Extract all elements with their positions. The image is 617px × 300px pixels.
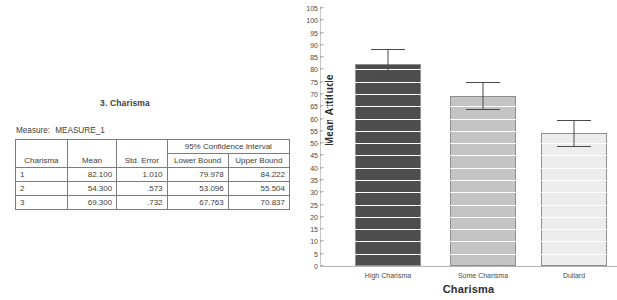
- y-axis-tick-label: 25: [288, 201, 320, 208]
- y-axis-tick-label: 20: [288, 213, 320, 220]
- y-axis-tick-mark: [320, 106, 324, 107]
- cell-upper-bound: 70.837: [228, 196, 289, 210]
- y-axis-tick-mark: [320, 229, 324, 230]
- y-axis-tick-label: 45: [288, 152, 320, 159]
- y-axis-tick-mark: [320, 8, 324, 9]
- y-axis-tick-mark: [320, 192, 324, 193]
- x-axis-tick-label: Some Charisma: [433, 272, 533, 279]
- table-row: 3 69.300 .732 67.763 70.837: [16, 196, 290, 210]
- header-std-error: Std. Error: [117, 154, 167, 168]
- cell-charisma: 3: [16, 196, 68, 210]
- error-bar-cap: [371, 49, 405, 50]
- error-bar-stem: [574, 120, 575, 146]
- y-axis-tick-label: 55: [288, 127, 320, 134]
- y-axis-tick-label: 75: [288, 78, 320, 85]
- y-axis-tick-mark: [320, 241, 324, 242]
- header-lower-bound: Lower Bound: [167, 154, 228, 168]
- y-axis-tick-mark: [320, 143, 324, 144]
- cell-lower-bound: 79.978: [167, 168, 228, 182]
- gridline: [322, 20, 617, 21]
- y-axis-tick-mark: [320, 204, 324, 205]
- error-bar-cap: [371, 79, 405, 80]
- bar[interactable]: [355, 64, 421, 266]
- y-axis-tick-mark: [320, 253, 324, 254]
- cell-charisma: 2: [16, 182, 68, 196]
- x-axis-line: [320, 266, 617, 267]
- y-axis-tick-label: 105: [288, 5, 320, 12]
- cell-std-error: .732: [117, 196, 167, 210]
- x-axis-title: Charisma: [320, 283, 617, 295]
- error-bar-cap: [466, 109, 500, 110]
- cell-lower-bound: 53.096: [167, 182, 228, 196]
- y-axis-tick-label: 0: [288, 263, 320, 270]
- y-axis-tick-label: 80: [288, 66, 320, 73]
- y-axis-tick-mark: [320, 32, 324, 33]
- error-bar-cap: [466, 82, 500, 83]
- y-axis-tick-label: 30: [288, 189, 320, 196]
- y-axis-tick-label: 50: [288, 140, 320, 147]
- y-axis-tick-label: 90: [288, 41, 320, 48]
- y-axis-tick-mark: [320, 94, 324, 95]
- header-spacer-charisma: [16, 140, 68, 154]
- bar[interactable]: [541, 133, 607, 266]
- plot-area: 0510152025303540455055606570758085909510…: [320, 0, 617, 270]
- y-axis-tick-label: 5: [288, 250, 320, 257]
- y-axis-tick-label: 85: [288, 54, 320, 61]
- header-confidence-interval: 95% Confidence Interval: [167, 140, 289, 154]
- y-axis-tick-mark: [320, 180, 324, 181]
- cell-charisma: 1: [16, 168, 68, 182]
- y-axis-tick-label: 65: [288, 103, 320, 110]
- table-title: 3. Charisma: [0, 98, 250, 108]
- y-axis-tick-mark: [320, 81, 324, 82]
- gridline: [322, 33, 617, 34]
- cell-lower-bound: 67.763: [167, 196, 228, 210]
- measure-label: Measure:: [16, 126, 50, 135]
- y-axis-tick-label: 70: [288, 91, 320, 98]
- bar[interactable]: [450, 96, 516, 266]
- y-axis-tick-mark: [320, 155, 324, 156]
- cell-upper-bound: 55.504: [228, 182, 289, 196]
- y-axis-tick-label: 60: [288, 115, 320, 122]
- y-axis-tick-mark: [320, 167, 324, 168]
- cell-std-error: 1.010: [117, 168, 167, 182]
- error-bar-cap: [557, 146, 591, 147]
- statistics-panel: 3. Charisma Measure:MEASURE_1 95% Confid…: [0, 0, 290, 300]
- gridline: [322, 45, 617, 46]
- y-axis-tick-mark: [320, 69, 324, 70]
- gridline: [322, 8, 617, 9]
- header-spacer-std-error: [117, 140, 167, 154]
- y-axis-tick-label: 40: [288, 164, 320, 171]
- cell-std-error: .573: [117, 182, 167, 196]
- header-mean: Mean: [67, 154, 116, 168]
- y-axis-tick-mark: [320, 44, 324, 45]
- x-axis-tick-label: High Charisma: [338, 272, 438, 279]
- error-bar: [463, 82, 503, 110]
- y-axis-tick-label: 95: [288, 29, 320, 36]
- descriptives-table: 95% Confidence Interval Charisma Mean St…: [15, 139, 290, 210]
- table-header-row-bottom: Charisma Mean Std. Error Lower Bound Upp…: [16, 154, 290, 168]
- error-bar-cap: [557, 120, 591, 121]
- table-header-row-top: 95% Confidence Interval: [16, 140, 290, 154]
- measure-line: Measure:MEASURE_1: [16, 126, 105, 135]
- cell-mean: 54.300: [67, 182, 116, 196]
- error-bar-stem: [388, 49, 389, 79]
- y-axis-tick-label: 10: [288, 238, 320, 245]
- cell-mean: 82.100: [67, 168, 116, 182]
- y-axis-tick-label: 100: [288, 17, 320, 24]
- y-axis-tick-label: 15: [288, 226, 320, 233]
- gridline: [322, 57, 617, 58]
- y-axis-tick-mark: [320, 118, 324, 119]
- error-bar: [368, 49, 408, 79]
- y-axis-tick-mark: [320, 216, 324, 217]
- bar-chart-panel: Mean Attitude 05101520253035404550556065…: [290, 0, 617, 300]
- measure-value: MEASURE_1: [55, 126, 105, 135]
- cell-mean: 69.300: [67, 196, 116, 210]
- y-axis-tick-label: 35: [288, 177, 320, 184]
- y-axis-tick-mark: [320, 20, 324, 21]
- header-spacer-mean: [67, 140, 116, 154]
- error-bar: [554, 120, 594, 146]
- header-charisma: Charisma: [16, 154, 68, 168]
- x-axis-tick-label: Dullard: [524, 272, 617, 279]
- table-row: 2 54.300 .573 53.096 55.504: [16, 182, 290, 196]
- y-axis-tick-mark: [320, 57, 324, 58]
